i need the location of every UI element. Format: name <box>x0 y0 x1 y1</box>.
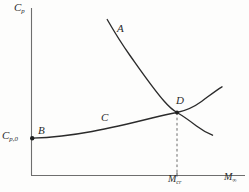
x-tick-label-mcr: Mcr <box>168 174 182 185</box>
curve-c-rising <box>32 87 222 138</box>
curve-a-label: A <box>117 23 124 34</box>
y-intercept-label: Cp,0 <box>2 130 18 143</box>
x-axis-label: M∞ <box>224 172 237 183</box>
y-axis-label: Cp <box>14 2 25 15</box>
point-b-label: B <box>38 125 45 136</box>
point-b-marker <box>30 136 34 140</box>
curve-c-label: C <box>101 112 108 123</box>
curves-group <box>32 20 222 139</box>
point-d-label: D <box>176 95 184 106</box>
figure-container: Cp Cp,0 Mcr M∞ A B C D <box>0 0 249 192</box>
plot-canvas <box>0 0 249 192</box>
point-d-marker <box>175 111 179 115</box>
curve-a-descending <box>107 20 212 136</box>
